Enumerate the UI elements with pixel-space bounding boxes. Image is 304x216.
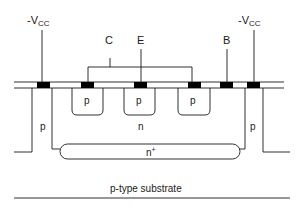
label-p-well-3: p bbox=[190, 95, 196, 106]
contact-base bbox=[220, 82, 233, 88]
transistor-cross-section-diagram: -VCC -VCC C E B p p p n p p n+ p-type su… bbox=[0, 0, 304, 216]
contact-collector-2 bbox=[188, 82, 201, 88]
label-isolation-right: p bbox=[250, 121, 256, 132]
label-buried-layer: n+ bbox=[146, 146, 156, 158]
contact-vcc-right bbox=[247, 82, 260, 88]
label-isolation-left: p bbox=[40, 121, 46, 132]
label-base: B bbox=[223, 34, 230, 46]
isolation-left-inner bbox=[52, 88, 60, 149]
isolation-right-outer bbox=[263, 88, 290, 152]
label-vcc-right: -VCC bbox=[238, 14, 261, 28]
contact-emitter bbox=[134, 82, 147, 88]
isolation-left-outer bbox=[14, 88, 32, 152]
collector-bus bbox=[88, 67, 192, 82]
label-collector: C bbox=[105, 34, 113, 46]
isolation-right-inner bbox=[239, 88, 245, 149]
label-n-epi: n bbox=[138, 121, 144, 132]
contact-vcc-left bbox=[37, 82, 50, 88]
label-p-well-2: p bbox=[136, 95, 142, 106]
label-p-well-1: p bbox=[84, 95, 90, 106]
contact-collector-1 bbox=[81, 82, 94, 88]
label-vcc-left: -VCC bbox=[27, 14, 50, 28]
label-emitter: E bbox=[137, 34, 144, 46]
label-substrate: p-type substrate bbox=[110, 183, 182, 194]
